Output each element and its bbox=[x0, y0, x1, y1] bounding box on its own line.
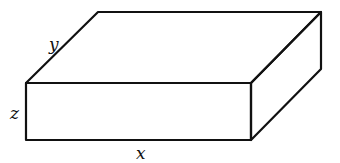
top-face bbox=[26, 12, 321, 83]
right-face bbox=[251, 12, 321, 140]
label-z-height: z bbox=[9, 103, 20, 123]
label-x-length: x bbox=[136, 143, 146, 163]
label-y-depth: y bbox=[48, 34, 59, 54]
box-edges bbox=[26, 12, 321, 140]
front-face bbox=[26, 83, 251, 140]
box-diagram: y z x bbox=[0, 0, 340, 163]
